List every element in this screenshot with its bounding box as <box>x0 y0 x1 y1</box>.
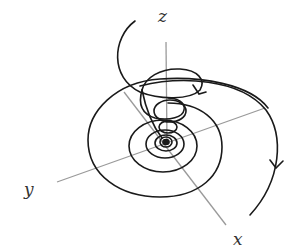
x-axis <box>124 92 226 225</box>
spiral-diagram: z y x <box>0 0 296 252</box>
y-axis-label: y <box>23 179 34 199</box>
z-axis <box>166 42 167 143</box>
trajectory-curve <box>88 21 277 215</box>
x-axis-label: x <box>233 229 243 249</box>
center-point <box>164 140 169 145</box>
z-axis-label: z <box>157 6 168 26</box>
